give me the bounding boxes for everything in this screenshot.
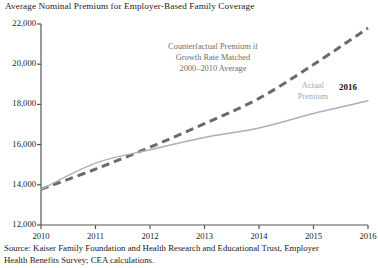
y-axis-tick-label: 14,000	[0, 179, 36, 189]
x-axis-tick-label: 2015	[294, 231, 334, 241]
x-axis-tick-label: 2016	[348, 231, 378, 241]
x-axis-tick-label: 2013	[185, 231, 225, 241]
annotation-actual-line2: Premium	[286, 91, 340, 102]
y-axis-tick-label: 22,000	[0, 18, 36, 28]
source-note-line1: Source: Kaiser Family Foundation and Hea…	[4, 243, 378, 255]
annotation-actual-premium: Actual Premium	[286, 80, 340, 102]
annotation-actual-line1: Actual	[286, 80, 340, 91]
y-axis-tick-label: 16,000	[0, 139, 36, 149]
annotation-counterfactual-line1: Counterfactual Premium if	[133, 41, 293, 52]
x-axis-tick-label: 2014	[239, 231, 279, 241]
annotation-counterfactual-line3: 2000–2010 Average	[133, 63, 293, 74]
chart-page: Average Nominal Premium for Employer-Bas…	[0, 0, 378, 268]
x-axis-tick-label: 2010	[21, 231, 61, 241]
source-note-line2: Health Benefits Survey; CEA calculations…	[4, 255, 378, 267]
annotation-endpoint-year: 2016	[339, 82, 357, 92]
x-axis-tick-label: 2011	[76, 231, 116, 241]
x-axis-tick-label: 2012	[130, 231, 170, 241]
source-note: Source: Kaiser Family Foundation and Hea…	[4, 243, 378, 266]
annotation-counterfactual-line2: Growth Rate Matched	[133, 52, 293, 63]
y-axis-tick-label: 18,000	[0, 98, 36, 108]
annotation-counterfactual: Counterfactual Premium if Growth Rate Ma…	[133, 41, 293, 75]
y-axis-tick-label: 12,000	[0, 219, 36, 229]
y-axis-tick-label: 20,000	[0, 58, 36, 68]
series-line-actual	[41, 101, 368, 190]
x-axis-ticks	[41, 225, 368, 229]
